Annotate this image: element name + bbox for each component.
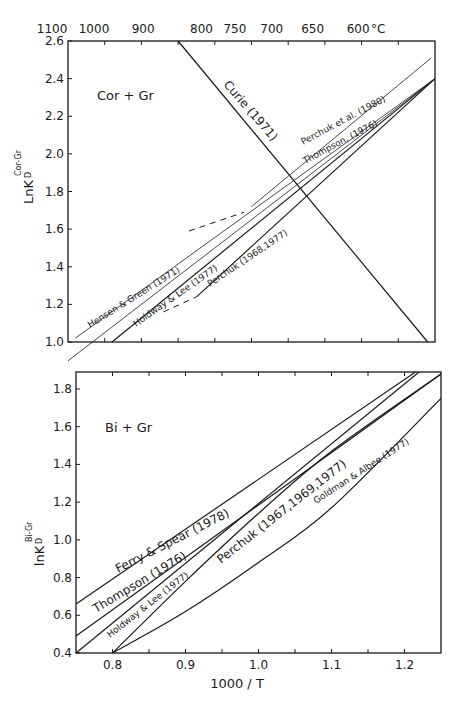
- top-axis-temp-label: 1000: [79, 22, 110, 36]
- x-tick-label: 1.2: [395, 658, 414, 672]
- bottom-ylabel-sup: Bi-Gr: [25, 521, 34, 542]
- top-temperature-axis: 11001000900800750700650600°C: [37, 22, 386, 36]
- label-curie: Curie (1971): [221, 78, 281, 144]
- y-tick-label: 1.8: [45, 185, 64, 199]
- top-axis-temp-label: 800: [190, 22, 213, 36]
- y-tick-label: 1.6: [45, 222, 64, 236]
- y-tick-label: 2.4: [45, 72, 64, 86]
- x-tick-label: 0.8: [103, 658, 122, 672]
- label-perchuk-1967: Perchuk (1967,1969,1977): [214, 457, 349, 567]
- series-line: [76, 372, 419, 653]
- top-axis-temp-label: 700: [260, 22, 283, 36]
- series-line: [178, 41, 428, 342]
- top-axis-temp-label: 750: [223, 22, 246, 36]
- bottom-xlabel: 1000 / T: [210, 676, 264, 691]
- top-ylabel-sup: Cor-Gr: [14, 149, 23, 176]
- celsius-unit-label: °C: [371, 22, 385, 36]
- series-line: [189, 212, 244, 231]
- top-y-axis-title: LnK D Cor-Gr: [14, 149, 36, 204]
- y-tick-label: 0.8: [53, 571, 72, 585]
- bottom-panel: 0.40.60.81.01.21.41.61.8 0.80.91.01.11.2…: [25, 372, 441, 691]
- top-ylabel-main: LnK: [21, 180, 36, 204]
- top-axis-temp-label: 900: [132, 22, 155, 36]
- y-tick-label: 1.6: [53, 420, 72, 434]
- series-line: [76, 374, 441, 636]
- top-ylabel-sub: D: [24, 172, 33, 178]
- figure: 11001000900800750700650600°C 1.01.21.41.…: [0, 0, 460, 702]
- y-tick-label: 1.0: [45, 335, 64, 349]
- y-tick-label: 1.0: [53, 533, 72, 547]
- bottom-ylabel-sub: D: [35, 538, 44, 544]
- y-tick-label: 1.2: [45, 297, 64, 311]
- y-tick-label: 2.0: [45, 147, 64, 161]
- y-tick-label: 1.4: [53, 457, 72, 471]
- top-axis-temp-label: 600: [347, 22, 370, 36]
- x-tick-label: 0.9: [176, 658, 195, 672]
- bottom-panel-label: Bi + Gr: [105, 420, 153, 435]
- y-tick-label: 2.2: [45, 109, 64, 123]
- bottom-ylabel-main: lnK: [32, 545, 47, 566]
- y-tick-label: 1.4: [45, 260, 64, 274]
- top-panel: 11001000900800750700650600°C 1.01.21.41.…: [14, 22, 435, 361]
- y-tick-label: 2.6: [45, 34, 64, 48]
- y-tick-label: 0.6: [53, 608, 72, 622]
- y-tick-label: 0.4: [53, 646, 72, 660]
- series-line: [113, 398, 442, 653]
- top-axis-temp-label: 650: [301, 22, 324, 36]
- label-perchuk-1968: Perchuk (1968,1977): [206, 228, 290, 289]
- y-tick-label: 1.8: [53, 382, 72, 396]
- top-panel-label: Cor + Gr: [97, 88, 155, 103]
- chart-canvas: 11001000900800750700650600°C 1.01.21.41.…: [0, 0, 460, 702]
- bottom-y-axis-title: lnK D Bi-Gr: [25, 521, 47, 566]
- x-tick-label: 1.1: [322, 658, 341, 672]
- x-tick-label: 1.0: [249, 658, 268, 672]
- top-x-ticks: [105, 41, 399, 342]
- y-tick-label: 1.2: [53, 495, 72, 509]
